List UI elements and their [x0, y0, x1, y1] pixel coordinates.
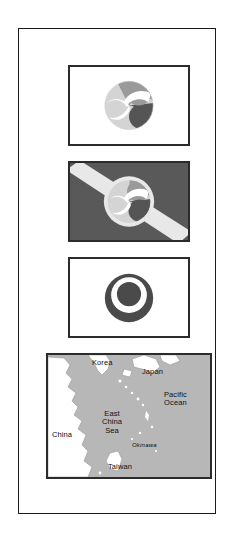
- ring-disc-emblem-icon: [70, 259, 188, 336]
- map-label-pacific-ocean: Pacific Ocean: [164, 391, 187, 408]
- tomoe-emblem-icon: [70, 67, 188, 144]
- flag-okinawa-city: [68, 161, 190, 242]
- map-landmasses: [48, 355, 210, 477]
- flag-okinawa-prefecture: [68, 65, 190, 146]
- flag-okinawa-town: [68, 257, 190, 338]
- map-label-japan: Japan: [142, 368, 163, 376]
- map-label-okinawa: Okinawa: [132, 441, 157, 449]
- map-label-taiwan: Taiwan: [108, 463, 132, 471]
- map-label-east-china-sea: East China Sea: [102, 410, 122, 435]
- map-label-korea: Korea: [92, 359, 113, 367]
- map-label-china: China: [52, 431, 72, 439]
- locator-map: Korea Japan Pacific Ocean East China Sea…: [46, 353, 212, 479]
- page-frame: Korea Japan Pacific Ocean East China Sea…: [18, 28, 216, 514]
- tomoe-ring-band-emblem-icon: [70, 163, 188, 240]
